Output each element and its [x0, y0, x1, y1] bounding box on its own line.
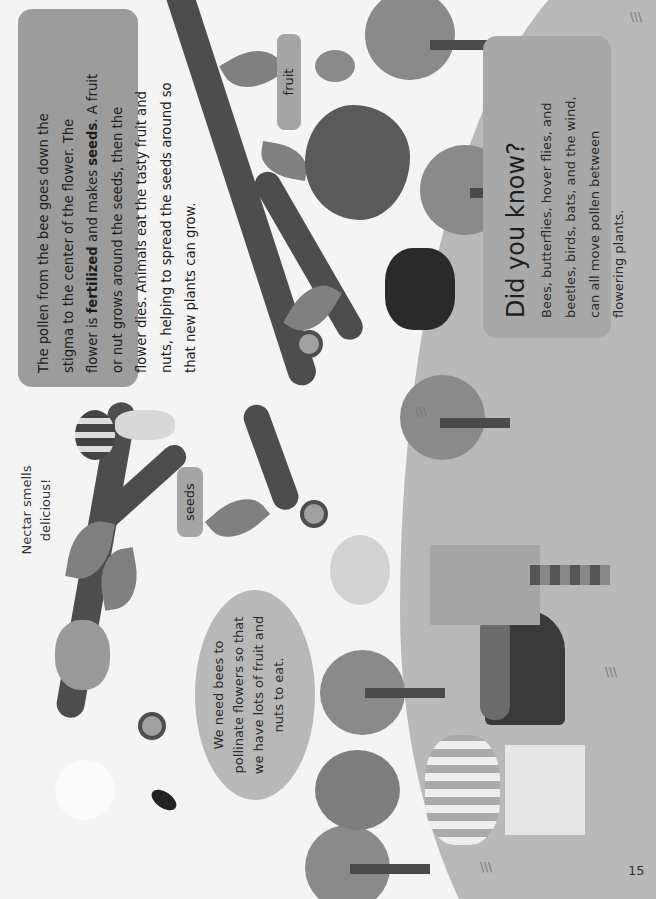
info-line: flower dies. Animals eat the tasty fruit… [130, 23, 155, 373]
bee-illustration [75, 410, 115, 460]
grass-mark: \\\ [630, 10, 642, 24]
info-box: The pollen from the bee goes down the st… [18, 9, 138, 387]
seeds-label: seeds [177, 467, 203, 537]
butterfly-illustration [315, 50, 355, 82]
info-line: that new plants can grow. [179, 23, 204, 373]
beetle-illustration [148, 785, 180, 814]
dyk-line: beetles, birds, bats, and the wind, [559, 50, 583, 318]
info-box-text: The pollen from the bee goes down the st… [32, 23, 204, 373]
boy-illustration [315, 735, 595, 845]
info-line: stigma to the center of the flower. The [57, 23, 82, 373]
info-line: or nut grows around the seeds, then the [106, 23, 131, 373]
grass-mark: \\\ [605, 665, 617, 679]
flower-illustration [115, 410, 175, 440]
dyk-line: Bees, butterflies, hover flies, and [535, 50, 559, 318]
speech-bubble-text: We need bees to pollinate flowers so tha… [195, 590, 289, 800]
bat-illustration [385, 248, 455, 330]
did-you-know-body: Bees, butterflies, hover flies, and beet… [535, 50, 631, 318]
grass-mark: \\\ [480, 860, 492, 874]
apple-illustration [305, 105, 410, 220]
dyk-line: can all move pollen between [583, 50, 607, 318]
grass-mark: \\\ [415, 405, 427, 419]
nectar-caption-line: delicious! [36, 440, 55, 580]
did-you-know-title: Did you know? [503, 50, 529, 318]
dyk-line: flowering plants. [607, 50, 631, 318]
info-line: nuts, helping to spread the seeds around… [155, 23, 180, 373]
speech-line: We need bees to [209, 590, 229, 800]
info-line: The pollen from the bee goes down the [32, 23, 57, 373]
did-you-know-box: Did you know? Bees, butterflies, hover f… [483, 36, 611, 338]
speech-bubble: We need bees to pollinate flowers so tha… [195, 590, 315, 800]
bold-term-fertilized: fertilized [85, 246, 100, 313]
speech-line: we have lots of fruit and [249, 590, 269, 800]
nectar-caption: Nectar smells delicious! [17, 440, 55, 580]
girl-illustration [330, 515, 590, 635]
nectar-caption-line: Nectar smells [17, 440, 36, 580]
info-line: flower is fertilized and makes seeds. A … [81, 23, 106, 373]
page-number: 15 [628, 863, 645, 878]
small-flower-illustration [55, 760, 115, 820]
fruit-label: fruit [277, 34, 301, 130]
bold-term-seeds: seeds [85, 123, 100, 166]
speech-line: pollinate flowers so that [229, 590, 249, 800]
bird-illustration [55, 620, 110, 690]
speech-line: nuts to eat. [269, 590, 289, 800]
